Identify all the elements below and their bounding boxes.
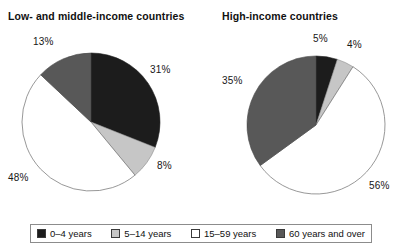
pie-chart-figure: Low- and middle-income countries 13% 31%… [0, 0, 402, 252]
legend-swatch-age-60-plus [276, 229, 285, 238]
right-label-age-5-14: 4% [347, 39, 362, 50]
legend-swatch-age-15-59 [191, 229, 200, 238]
legend-swatch-age-0-4 [37, 229, 46, 238]
left-label-age-60-plus: 13% [33, 36, 54, 47]
right-label-age-0-4: 5% [313, 33, 328, 44]
right-panel-title: High-income countries [222, 10, 338, 22]
left-pie-chart [21, 52, 161, 192]
left-label-age-0-4: 31% [150, 64, 171, 75]
legend-item-age-15-59: 15–59 years [191, 229, 256, 239]
legend-label-age-5-14: 5–14 years [124, 229, 171, 239]
right-label-age-60-plus: 35% [222, 75, 243, 86]
left-label-age-15-59: 48% [8, 172, 29, 183]
legend: 0–4 years 5–14 years 15–59 years 60 year… [30, 224, 372, 243]
legend-label-age-60-plus: 60 years and over [289, 229, 365, 239]
legend-item-age-0-4: 0–4 years [37, 229, 92, 239]
legend-label-age-0-4: 0–4 years [50, 229, 92, 239]
right-pie-svg [246, 55, 386, 195]
legend-item-age-5-14: 5–14 years [111, 229, 171, 239]
right-pie-chart [246, 55, 386, 195]
right-label-age-15-59: 56% [369, 180, 390, 191]
left-pie-svg [21, 52, 161, 192]
left-panel-title: Low- and middle-income countries [8, 10, 184, 22]
left-label-age-5-14: 8% [157, 160, 172, 171]
legend-label-age-15-59: 15–59 years [204, 229, 256, 239]
legend-item-age-60-plus: 60 years and over [276, 229, 365, 239]
legend-swatch-age-5-14 [111, 229, 120, 238]
